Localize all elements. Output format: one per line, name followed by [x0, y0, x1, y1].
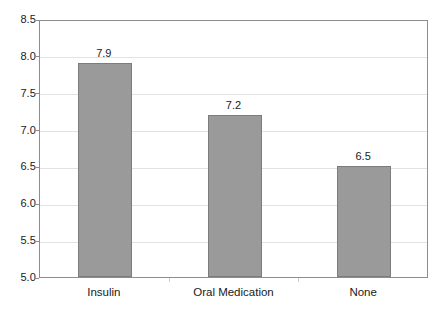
y-axis-tick-label: 6.5 [2, 161, 36, 172]
y-axis-tick-labels: 8.58.07.57.06.56.05.55.0 [0, 0, 36, 315]
bar-value-label: 7.9 [74, 48, 134, 59]
bar[interactable] [78, 63, 132, 277]
y-axis-tick-label: 7.0 [2, 125, 36, 136]
y-axis-tick-label: 8.5 [2, 14, 36, 25]
x-axis-separator-tick [298, 278, 299, 282]
y-axis-tick-label: 5.0 [2, 272, 36, 283]
x-axis-category-label: Insulin [34, 286, 174, 299]
y-axis-tick-label: 5.5 [2, 235, 36, 246]
bar-value-label: 6.5 [333, 151, 393, 162]
x-axis-category-label: None [293, 286, 433, 299]
y-axis-tick-label: 7.5 [2, 88, 36, 99]
x-axis-category-label: Oral Medication [164, 286, 304, 299]
bar[interactable] [208, 115, 262, 277]
x-axis-separator-tick [169, 278, 170, 282]
bar[interactable] [337, 166, 391, 277]
y-axis-tick-label: 8.0 [2, 51, 36, 62]
bar-chart: 8.58.07.57.06.56.05.55.0 InsulinOral Med… [0, 0, 446, 315]
bar-value-label: 7.2 [204, 100, 264, 111]
y-axis-tick-label: 6.0 [2, 198, 36, 209]
